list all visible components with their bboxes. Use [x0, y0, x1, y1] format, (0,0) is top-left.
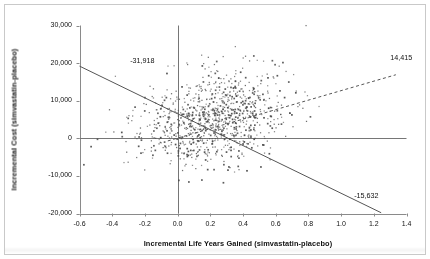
y-axis-title: Incremental Cost (simvastatin-placebo)	[10, 20, 19, 220]
cost-effectiveness-plane-figure: Incremental Cost (simvastatin-placebo) I…	[0, 0, 430, 259]
x-axis-title: Incremental Life Years Gained (simvastat…	[0, 239, 430, 248]
y-tick-label: 20,000	[20, 59, 72, 66]
y-tick-label: 0	[20, 134, 72, 141]
y-tick-label: -20,000	[20, 209, 72, 216]
x-tick-label: 0.0	[162, 220, 194, 227]
x-tick-label: 1.4	[391, 220, 423, 227]
lower-threshold-label: -15,632	[354, 191, 378, 200]
x-tick-label: 0.4	[227, 220, 259, 227]
x-tick-label: 1.0	[325, 220, 357, 227]
x-tick-label: -0.4	[96, 220, 128, 227]
regression-endpoint-label: 14,415	[390, 53, 412, 62]
x-tick-label: 0.8	[292, 220, 324, 227]
x-tick-label: -0.6	[64, 220, 96, 227]
upper-threshold-label: -31,918	[130, 56, 154, 65]
x-tick-label: -0.2	[129, 220, 161, 227]
y-tick-label: -10,000	[20, 171, 72, 178]
x-tick-label: 0.6	[260, 220, 292, 227]
x-tick-label: 1.2	[358, 220, 390, 227]
x-tick-label: 0.2	[194, 220, 226, 227]
y-tick-label: 30,000	[20, 21, 72, 28]
y-tick-label: 10,000	[20, 96, 72, 103]
